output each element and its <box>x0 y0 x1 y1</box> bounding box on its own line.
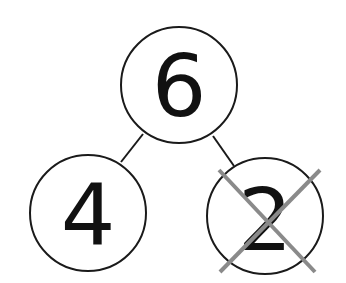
part-node-left: 4 <box>30 155 146 271</box>
part-value-left: 4 <box>61 165 116 265</box>
number-bond-diagram: 6 4 2 <box>0 0 346 283</box>
connector-line-left <box>121 134 143 162</box>
whole-node: 6 <box>121 27 237 143</box>
part-node-right: 2 <box>207 158 323 274</box>
connector-line-right <box>213 136 234 166</box>
whole-value: 6 <box>152 36 207 136</box>
